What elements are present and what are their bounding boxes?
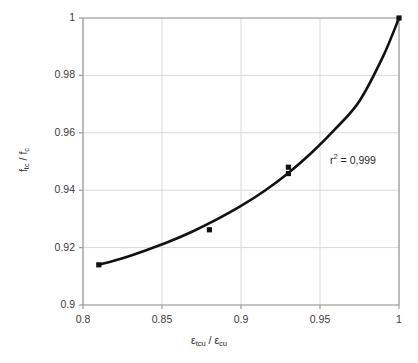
x-axis-title-eps1: ε bbox=[191, 334, 196, 346]
x-tick-label: 1 bbox=[379, 313, 418, 325]
y-tick-label: 1 bbox=[35, 11, 75, 23]
data-point-marker bbox=[286, 171, 291, 176]
x-axis-title: εtcu / εcu bbox=[0, 334, 418, 346]
data-point-markers bbox=[96, 15, 401, 267]
curve-path bbox=[99, 18, 399, 265]
x-tick-label: 0.85 bbox=[142, 313, 182, 325]
data-point-marker bbox=[207, 227, 212, 232]
x-tick-label: 0.95 bbox=[300, 313, 340, 325]
y-axis-title-sub2: c bbox=[22, 148, 31, 152]
data-point-marker bbox=[96, 262, 101, 267]
y-tick-label: 0.94 bbox=[35, 183, 75, 195]
data-point-marker bbox=[396, 15, 401, 20]
fitted-curve bbox=[99, 18, 399, 265]
y-axis-title-sep: / f bbox=[17, 152, 29, 164]
x-tick-label: 0.9 bbox=[221, 313, 261, 325]
y-axis-title: ftc / fc bbox=[10, 120, 36, 200]
y-axis-title-f1: f bbox=[17, 169, 29, 172]
chart-figure: 0.90.920.940.960.981 0.80.850.90.951 ftc… bbox=[0, 0, 418, 363]
x-axis-title-sub1: tcu bbox=[196, 339, 206, 348]
r-squared-annotation: r2 = 0,999 bbox=[330, 152, 376, 166]
x-axis-title-sub2: cu bbox=[219, 339, 227, 348]
y-tick-label: 0.96 bbox=[35, 126, 75, 138]
x-tick-label: 0.8 bbox=[63, 313, 103, 325]
r-squared-value: = 0,999 bbox=[338, 154, 376, 166]
y-tick-label: 0.92 bbox=[35, 241, 75, 253]
y-tick-label: 0.98 bbox=[35, 68, 75, 80]
data-point-marker bbox=[286, 165, 291, 170]
y-axis-title-sub1: tc bbox=[22, 163, 31, 169]
y-tick-label: 0.9 bbox=[35, 298, 75, 310]
